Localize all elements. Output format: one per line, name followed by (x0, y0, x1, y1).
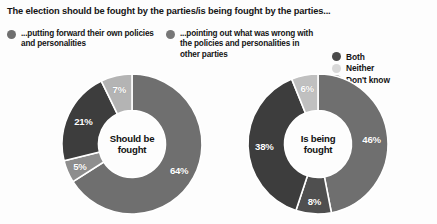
legend-dot-own-policies (7, 30, 16, 39)
legend-item-both: Both (332, 51, 432, 63)
legend-label-own-policies: ...putting forward their own policies an… (21, 29, 162, 50)
donut-svg-should-be-fought (58, 70, 206, 218)
donut-chart-is-being-fought: Is being fought 46%8%38%6% (244, 70, 392, 218)
legend-dot-both (332, 52, 341, 61)
donut-svg-is-being-fought (244, 70, 392, 218)
legend: ...putting forward their own policies an… (0, 24, 437, 64)
donut-slice (318, 74, 388, 213)
page-title: The election should be fought by the par… (7, 6, 431, 16)
legend-item-own-policies: ...putting forward their own policies an… (7, 29, 162, 50)
legend-dot-attack-others (166, 30, 175, 39)
donut-slice (248, 79, 307, 210)
donut-chart-should-be-fought: Should be fought 64%5%21%7% (58, 70, 206, 218)
legend-label-attack-others: ...pointing out what was wrong with the … (180, 29, 316, 60)
legend-label-both: Both (346, 52, 365, 62)
chart-page: The election should be fought by the par… (0, 0, 437, 224)
legend-item-attack-others: ...pointing out what was wrong with the … (166, 29, 316, 60)
